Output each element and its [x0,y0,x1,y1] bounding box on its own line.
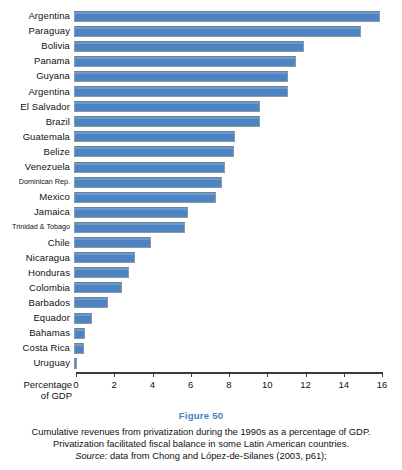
bar-category-label: Bahamas [0,328,74,338]
figure-number: Figure 50 [0,410,402,421]
bar-row: Belize [0,145,402,159]
x-tick-label: 6 [188,379,193,390]
bar-track [74,116,402,127]
x-tick-label: 4 [150,379,155,390]
x-tick [153,372,154,377]
bar [74,237,151,248]
bar [74,177,222,188]
bar-row: Jamaica [0,205,402,219]
bar-category-label: Mexico [0,192,74,202]
bar-track [74,282,402,293]
bar-category-label: Colombia [0,283,74,293]
figure-caption-block: Figure 50 Cumulative revenues from priva… [0,410,402,462]
bar-track [74,222,402,233]
bar-category-label: Uruguay [0,358,74,368]
bar-row: Honduras [0,266,402,280]
bar-category-label: El Salvador [0,102,74,112]
bar-track [74,101,402,112]
bar-track [74,252,402,263]
bar-category-label: Dominican Rep. [0,177,74,187]
bar-category-label: Belize [0,147,74,157]
x-tick-label: 0 [73,379,78,390]
bar-row: El Salvador [0,100,402,114]
bar-category-label: Brazil [0,117,74,127]
bar-category-label: Costa Rica [0,343,74,353]
x-tick-label: 14 [338,379,349,390]
bar-track [74,11,402,22]
bar-track [74,177,402,188]
x-tick-label: 10 [262,379,273,390]
bar-category-label: Guyana [0,71,74,81]
bar-row: Dominican Rep. [0,175,402,189]
bar-track [74,71,402,82]
bar [74,86,288,97]
bar [74,116,260,127]
bar-row: Uruguay [0,356,402,370]
x-tick-label: 12 [300,379,311,390]
bar-row: Guyana [0,69,402,83]
bar [74,267,129,278]
x-tick-label: 8 [226,379,231,390]
bar-row: Mexico [0,190,402,204]
bar-category-label: Argentina [0,87,74,97]
bar [74,358,77,369]
bar-track [74,343,402,354]
bar-category-label: Equador [0,313,74,323]
bar-row: Argentina [0,9,402,23]
bar [74,56,296,67]
bar [74,26,361,37]
bar-category-label: Nicaragua [0,253,74,263]
bar-track [74,131,402,142]
bar-track [74,146,402,157]
bar [74,252,135,263]
x-axis-title-line2: of GDP [0,390,72,401]
bar-row: Costa Rica [0,341,402,355]
bar-track [74,192,402,203]
source-detail: data from Chong and López-de-Silanes (20… [107,450,326,461]
x-tick [344,372,345,377]
bar-track [74,328,402,339]
bar [74,343,84,354]
x-tick [191,372,192,377]
bar [74,297,108,308]
bar-category-label: Jamaica [0,207,74,217]
bar-track [74,86,402,97]
bar-category-label: Argentina [0,11,74,21]
bar-track [74,207,402,218]
bar-category-label: Barbados [0,298,74,308]
bar [74,328,85,339]
x-tick [114,372,115,377]
x-tick [76,372,77,377]
bar-row: Trinidad & Tobago [0,220,402,234]
bar [74,313,92,324]
bar-row: Guatemala [0,130,402,144]
bar [74,146,234,157]
figure-caption-text: Cumulative revenues from privatization d… [0,426,402,449]
source-label: Source: [75,450,107,461]
bar-category-label: Bolivia [0,41,74,51]
bar [74,41,304,52]
bar [74,282,122,293]
bar-row: Bahamas [0,326,402,340]
bar-row: Bolivia [0,39,402,53]
bar-category-label: Venezuela [0,162,74,172]
bar-row: Panama [0,54,402,68]
bar-row: Equador [0,311,402,325]
bar-track [74,297,402,308]
bar-category-label: Trinidad & Tobago [0,222,74,232]
bar-track [74,267,402,278]
figure-source-text: Source: data from Chong and López-de-Sil… [0,450,402,462]
bar [74,71,288,82]
x-tick [382,372,383,377]
bar-row: Argentina [0,85,402,99]
bar [74,131,235,142]
bar [74,222,185,233]
x-tick-label: 2 [112,379,117,390]
x-tick-label: 16 [377,379,388,390]
bar-track [74,237,402,248]
x-tick [306,372,307,377]
bar [74,207,188,218]
bar [74,101,260,112]
bar-track [74,26,402,37]
bar [74,162,225,173]
